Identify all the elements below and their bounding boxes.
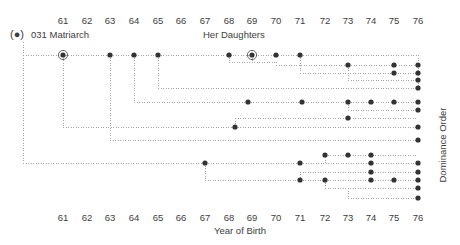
y-axis-title: Dominance Order — [437, 108, 448, 183]
bottom-tick-67: 67 — [200, 212, 211, 223]
dendrogram-svg: (●) 031 Matriarch Her Daughters 61626364… — [0, 0, 460, 245]
node-dot — [299, 99, 304, 104]
top-tick-66: 66 — [176, 15, 187, 26]
top-tick-72: 72 — [320, 15, 331, 26]
node-dot — [415, 85, 420, 90]
node-dot — [415, 62, 420, 67]
node-dot — [415, 160, 420, 165]
matriline-figure: (●) 031 Matriarch Her Daughters 61626364… — [0, 0, 460, 245]
node-dot — [415, 195, 420, 200]
node-dot — [368, 152, 373, 157]
top-tick-68: 68 — [224, 15, 235, 26]
node-dot — [415, 70, 420, 75]
bottom-tick-74: 74 — [366, 212, 377, 223]
node-dot — [345, 152, 350, 157]
tree-nodes — [58, 50, 420, 200]
node-dot — [368, 177, 373, 182]
node-dot — [415, 124, 420, 129]
node-dot — [368, 99, 373, 104]
top-tick-75: 75 — [389, 15, 400, 26]
node-dot — [322, 152, 327, 157]
node-dot — [368, 169, 373, 174]
node-dot — [345, 115, 350, 120]
bottom-tick-70: 70 — [271, 212, 282, 223]
node-dot — [273, 52, 278, 57]
bottom-tick-65: 65 — [153, 212, 164, 223]
node-dot — [297, 177, 302, 182]
top-tick-62: 62 — [82, 15, 93, 26]
top-tick-67: 67 — [200, 15, 211, 26]
bottom-tick-75: 75 — [389, 212, 400, 223]
node-dot — [155, 52, 160, 57]
node-dot — [345, 62, 350, 67]
top-tick-73: 73 — [343, 15, 354, 26]
node-dot — [368, 160, 373, 165]
node-dot — [297, 52, 302, 57]
node-dot — [391, 70, 396, 75]
top-tick-63: 63 — [105, 15, 116, 26]
bottom-tick-64: 64 — [129, 212, 140, 223]
node-dot — [249, 52, 254, 57]
node-dot — [415, 137, 420, 142]
node-dot — [322, 177, 327, 182]
bottom-tick-72: 72 — [320, 212, 331, 223]
bottom-tick-63: 63 — [105, 212, 116, 223]
top-tick-64: 64 — [129, 15, 140, 26]
node-dot — [226, 52, 231, 57]
node-dot — [391, 177, 396, 182]
node-dot — [297, 160, 302, 165]
tree-links — [23, 42, 418, 198]
node-dot — [202, 160, 207, 165]
bottom-tick-61: 61 — [58, 212, 69, 223]
top-tick-76: 76 — [413, 15, 424, 26]
node-dot — [415, 99, 420, 104]
node-dot — [131, 52, 136, 57]
node-dot — [415, 185, 420, 190]
bottom-tick-62: 62 — [82, 212, 93, 223]
node-dot — [391, 99, 396, 104]
node-dot — [60, 52, 65, 57]
top-tick-69: 69 — [247, 15, 258, 26]
matriarch-symbol: (●) — [10, 28, 24, 40]
x-axis-title: Year of Birth — [214, 225, 266, 236]
node-dot — [245, 99, 250, 104]
node-dot — [415, 169, 420, 174]
node-dot — [107, 52, 112, 57]
bottom-tick-66: 66 — [176, 212, 187, 223]
node-dot — [415, 177, 420, 182]
bottom-tick-68: 68 — [224, 212, 235, 223]
node-dot — [345, 99, 350, 104]
node-dot — [391, 62, 396, 67]
top-tick-74: 74 — [366, 15, 377, 26]
bottom-tick-69: 69 — [247, 212, 258, 223]
top-tick-61: 61 — [58, 15, 69, 26]
node-dot — [415, 77, 420, 82]
top-tick-65: 65 — [153, 15, 164, 26]
daughters-title: Her Daughters — [203, 29, 265, 40]
top-tick-70: 70 — [271, 15, 282, 26]
matriarch-title: 031 Matriarch — [31, 29, 89, 40]
bottom-tick-76: 76 — [413, 212, 424, 223]
top-tick-71: 71 — [295, 15, 306, 26]
node-dot — [232, 124, 237, 129]
node-dot — [415, 107, 420, 112]
bottom-axis-ticks: 61626364656667686970717273747576 — [58, 212, 424, 223]
top-axis-ticks: 61626364656667686970717273747576 — [58, 15, 424, 26]
matriarch-marker: (●) 031 Matriarch — [10, 28, 89, 40]
bottom-tick-71: 71 — [295, 212, 306, 223]
bottom-tick-73: 73 — [343, 212, 354, 223]
